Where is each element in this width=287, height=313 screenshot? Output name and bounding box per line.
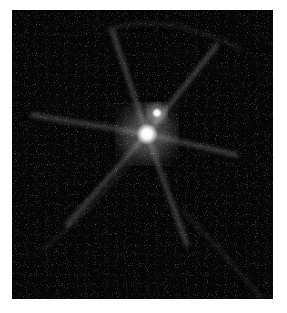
star-image-panel [12, 10, 273, 299]
star-field-image [12, 10, 273, 299]
noise-grain [12, 10, 273, 299]
